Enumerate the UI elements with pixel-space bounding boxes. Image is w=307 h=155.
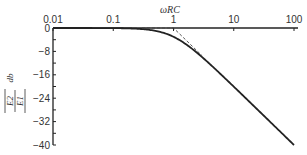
bode-magnitude-chart: 0.010.1110100 0−8−16−24−32−40 ωRC db E2 … [0,0,307,155]
x-tick-label: 0.1 [106,14,120,25]
x-tick-label: 1 [171,14,177,25]
y-tick-label: −8 [39,46,51,57]
x-tick-label: 100 [286,14,303,25]
y-axis-title: db E2 E1 [5,73,25,113]
x-axis-title: ωRC [160,4,180,15]
x-tick-label: 10 [228,14,240,25]
y-tick-label: −32 [33,116,50,127]
asymptote-dashed-line [142,28,202,56]
y-tick-label: −16 [33,69,50,80]
y-axis-unit: db [5,73,15,83]
y-axis-numerator: E2 [5,96,15,107]
y-tick-label: −40 [33,140,50,151]
y-axis-denominator: E1 [15,96,25,107]
y-tick-label: −24 [33,93,50,104]
response-curve [53,28,294,145]
axes [53,28,298,145]
y-tick-label: 0 [44,23,50,34]
